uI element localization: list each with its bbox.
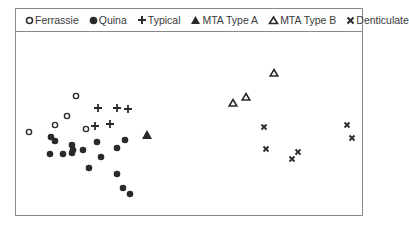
filled-circle-marker <box>60 151 67 158</box>
open-triangle-marker <box>270 70 278 77</box>
filled-circle-marker <box>120 185 127 192</box>
filled-circle-marker <box>114 171 121 178</box>
filled-circle-marker <box>127 191 134 198</box>
filled-circle-marker <box>94 139 101 146</box>
x-marker <box>350 136 355 141</box>
plus-marker <box>113 104 121 112</box>
plus-marker <box>124 105 132 113</box>
open-circle-marker <box>83 126 88 131</box>
filled-circle-marker <box>98 154 105 161</box>
x-marker <box>345 123 350 128</box>
open-circle-marker <box>26 129 31 134</box>
filled-circle-marker <box>47 151 54 158</box>
filled-circle-marker <box>69 150 76 157</box>
open-circle-marker <box>64 113 69 118</box>
filled-circle-marker <box>114 145 121 152</box>
filled-circle-marker <box>80 147 87 154</box>
x-marker <box>296 150 301 155</box>
open-circle-marker <box>73 93 78 98</box>
plus-marker <box>106 120 114 128</box>
open-circle-marker <box>52 122 57 127</box>
plus-marker <box>91 122 99 130</box>
filled-circle-marker <box>122 137 129 144</box>
x-marker <box>290 157 295 162</box>
filled-triangle-marker <box>142 130 152 139</box>
filled-circle-marker <box>86 165 93 172</box>
open-triangle-marker <box>242 94 250 101</box>
x-marker <box>264 147 269 152</box>
x-marker <box>262 125 267 130</box>
open-triangle-marker <box>229 100 237 107</box>
plus-marker <box>94 104 102 112</box>
filled-circle-marker <box>52 138 59 145</box>
